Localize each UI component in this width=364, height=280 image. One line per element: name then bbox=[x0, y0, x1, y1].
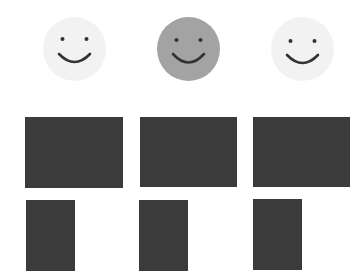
large-block-1 bbox=[25, 117, 123, 188]
canvas bbox=[0, 0, 364, 280]
smiley-face-icon bbox=[157, 17, 220, 81]
large-block-2 bbox=[140, 117, 237, 187]
small-block-3 bbox=[253, 199, 302, 270]
face-option-2-selected[interactable] bbox=[157, 17, 220, 81]
smiley-face-icon bbox=[271, 17, 334, 81]
smiley-face-icon bbox=[43, 17, 106, 81]
face-option-3[interactable] bbox=[271, 17, 334, 81]
small-block-2 bbox=[139, 200, 188, 271]
face-option-1[interactable] bbox=[43, 17, 106, 81]
large-block-3 bbox=[253, 117, 350, 187]
small-block-1 bbox=[26, 200, 75, 271]
